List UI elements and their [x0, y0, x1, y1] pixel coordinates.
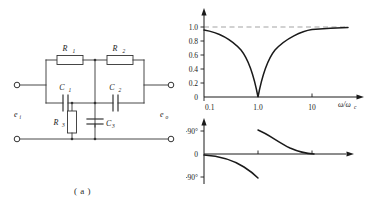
- bode-plot-panel: 1.0 0.8 0.6 0.4 0.2 0 0.1 1.0 10 ω/ω: [186, 0, 375, 213]
- phase-plot: +90° 0 -90°: [186, 112, 375, 204]
- resistor-r1-body: [57, 56, 83, 65]
- magnitude-x-tick-labels: 0.1 1.0 10: [205, 103, 316, 112]
- xtick-0-1: 0.1: [205, 103, 215, 112]
- capacitor-c2-sub: 2: [119, 87, 122, 93]
- output-signal-label: e: [160, 110, 164, 119]
- magnitude-y-tick-labels: 1.0 0.8 0.6 0.4 0.2 0: [189, 23, 199, 102]
- terminal-input-top: [14, 82, 20, 88]
- phase-y-tick-labels: +90° 0 -90°: [186, 127, 198, 182]
- ytick-0-2: 0.2: [189, 79, 199, 88]
- capacitor-c3-sub: 3: [111, 123, 115, 129]
- xtick-10: 10: [308, 103, 316, 112]
- resistor-r1-label: R: [62, 44, 68, 53]
- output-signal-sub: o: [166, 114, 169, 120]
- phase-x-axis-arrow: [347, 151, 355, 156]
- circuit-diagram: R 1 R 2 C 1 C 2 R 3 C 3 e i e o: [0, 0, 190, 180]
- magnitude-y-ticks: [201, 27, 205, 83]
- terminal-output-top: [168, 82, 174, 88]
- resistor-r2-sub: 2: [123, 48, 126, 54]
- magnitude-y-axis-arrow: [201, 8, 206, 16]
- phase-curve-above-notch: [258, 130, 314, 154]
- magnitude-curve: [204, 27, 348, 97]
- phase-ytick-zero: 0: [194, 150, 198, 159]
- svg-text:c: c: [354, 104, 357, 110]
- capacitor-c2-label: C: [109, 83, 115, 92]
- input-signal-label: e: [14, 110, 18, 119]
- phase-y-axis-arrow: [201, 118, 206, 126]
- magnitude-x-axis-label: ω/ω c: [338, 100, 357, 110]
- xtick-1-0: 1.0: [253, 103, 263, 112]
- junction-dot-mid-c: [94, 102, 97, 105]
- terminal-nodes: [14, 82, 174, 142]
- input-signal-sub: i: [20, 114, 22, 120]
- magnitude-x-axis-arrow: [357, 94, 365, 99]
- phase-ytick-plus90: +90°: [186, 127, 198, 136]
- capacitor-c1-sub: 1: [69, 87, 72, 93]
- svg-text:ω/ω: ω/ω: [338, 100, 351, 109]
- resistor-r3-body: [68, 111, 77, 133]
- terminal-output-bottom: [168, 136, 174, 142]
- phase-curve-below-notch: [204, 155, 258, 178]
- terminal-input-bottom: [14, 136, 20, 142]
- caption-a: ( a ): [74, 186, 91, 196]
- resistor-r3-sub: 3: [61, 122, 65, 128]
- ytick-0: 0: [194, 93, 198, 102]
- ytick-0-4: 0.4: [189, 65, 199, 74]
- phase-ytick-minus90: -90°: [186, 173, 198, 182]
- junction-dot-top-mid: [94, 59, 97, 62]
- resistor-r1-sub: 1: [73, 48, 76, 54]
- resistor-r2-body: [107, 56, 133, 65]
- ytick-0-8: 0.8: [189, 37, 199, 46]
- component-labels: R 1 R 2 C 1 C 2 R 3 C 3 e i e o: [14, 44, 169, 129]
- magnitude-plot: 1.0 0.8 0.6 0.4 0.2 0 0.1 1.0 10 ω/ω: [186, 0, 375, 118]
- ytick-0-6: 0.6: [189, 51, 199, 60]
- circuit-panel: R 1 R 2 C 1 C 2 R 3 C 3 e i e o ( a ): [0, 0, 190, 213]
- ytick-1-0: 1.0: [189, 23, 199, 32]
- figure-container: R 1 R 2 C 1 C 2 R 3 C 3 e i e o ( a ): [0, 0, 375, 213]
- resistor-r3-label: R: [53, 118, 59, 127]
- junction-dot-r3-tap: [71, 102, 74, 105]
- resistor-r2-label: R: [112, 44, 118, 53]
- capacitor-c1-label: C: [59, 83, 65, 92]
- junction-dot-c3-gnd: [94, 138, 97, 141]
- junction-dot-r3-gnd: [71, 138, 74, 141]
